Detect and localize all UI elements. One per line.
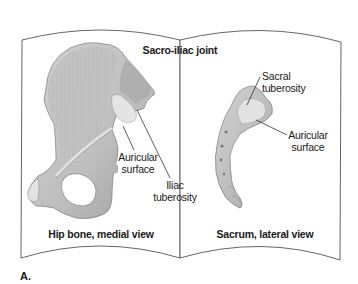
caption-hip-bone: Hip bone, medial view xyxy=(40,228,162,240)
label-hip-auricular-line1: Auricular xyxy=(116,151,160,163)
label-hip-auricular-surface: Auricular surface xyxy=(116,151,160,175)
label-iliac-tuberosity: Iliac tuberosity xyxy=(152,179,198,203)
caption-sacrum: Sacrum, lateral view xyxy=(205,228,325,240)
label-hip-auricular-line2: surface xyxy=(116,163,160,175)
figure-title: Sacro-iliac joint xyxy=(130,44,230,56)
label-sacrum-auricular-line2: surface xyxy=(288,141,328,153)
sacroiliac-joint-figure: Sacro-iliac joint Auricular surface Ilia… xyxy=(0,0,358,284)
label-sacral-tuberosity: Sacral tuberosity xyxy=(262,70,332,94)
label-iliac-line1: Iliac xyxy=(152,179,198,191)
label-iliac-line2: tuberosity xyxy=(152,191,198,203)
panel-letter: A. xyxy=(20,270,31,282)
label-sacrum-auricular-surface: Auricular surface xyxy=(288,129,328,153)
label-sacrum-auricular-line1: Auricular xyxy=(288,129,328,141)
